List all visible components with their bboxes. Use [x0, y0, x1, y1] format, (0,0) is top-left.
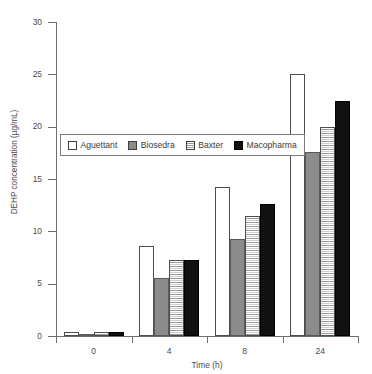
y-tick-mark — [48, 127, 56, 128]
bar-baxter-0h — [94, 332, 109, 336]
bar-baxter-4h — [169, 260, 184, 336]
x-axis-title: Time (h) — [56, 360, 358, 370]
y-tick-mark — [48, 231, 56, 232]
y-tick-mark — [48, 74, 56, 75]
legend-swatch-aguettant-icon — [68, 141, 77, 150]
legend-label: Biosedra — [141, 140, 175, 150]
bar-biosedra-4h — [154, 278, 169, 336]
legend-swatch-baxter-icon — [186, 141, 195, 150]
legend-label: Baxter — [198, 140, 223, 150]
x-tick-label: 4 — [149, 346, 189, 356]
y-tick-mark — [48, 284, 56, 285]
x-tick-label: 24 — [300, 346, 340, 356]
bar-aguettant-24h — [290, 74, 305, 336]
legend-swatch-macopharma-icon — [234, 141, 243, 150]
bar-baxter-24h — [320, 127, 335, 336]
bar-aguettant-0h — [64, 332, 79, 336]
bar-biosedra-24h — [305, 152, 320, 336]
x-tick-mark — [283, 336, 284, 343]
x-tick-label: 8 — [225, 346, 265, 356]
y-tick-label: 5 — [16, 279, 42, 288]
x-tick-label: 0 — [74, 346, 114, 356]
y-tick-mark — [48, 336, 56, 337]
y-tick-mark — [48, 22, 56, 23]
y-axis-line — [56, 22, 57, 336]
y-axis-title: DEHP concentration (µg/mL) — [8, 0, 22, 342]
bar-macopharma-24h — [335, 101, 350, 337]
chart-legend: AguettantBiosedraBaxterMacopharma — [60, 134, 305, 156]
bar-aguettant-8h — [215, 187, 230, 336]
x-tick-mark — [358, 336, 359, 343]
legend-item-macopharma: Macopharma — [234, 140, 297, 150]
y-tick-label: 25 — [16, 70, 42, 79]
x-tick-mark — [132, 336, 133, 343]
legend-swatch-biosedra-icon — [128, 141, 137, 150]
bar-aguettant-4h — [139, 246, 154, 336]
y-tick-label: 30 — [16, 18, 42, 27]
y-tick-label: 20 — [16, 122, 42, 131]
y-tick-label: 0 — [16, 332, 42, 341]
bar-biosedra-8h — [230, 239, 245, 336]
bar-macopharma-8h — [260, 204, 275, 336]
x-tick-mark — [207, 336, 208, 343]
legend-label: Aguettant — [81, 140, 118, 150]
y-tick-mark — [48, 179, 56, 180]
bar-chart: DEHP concentration (µg/mL) 051015202530 … — [0, 0, 372, 374]
bar-macopharma-4h — [184, 260, 199, 336]
bar-biosedra-0h — [79, 334, 94, 336]
legend-item-baxter: Baxter — [186, 140, 223, 150]
y-tick-label: 15 — [16, 175, 42, 184]
y-tick-label: 10 — [16, 227, 42, 236]
x-tick-mark — [56, 336, 57, 343]
legend-label: Macopharma — [247, 140, 297, 150]
legend-item-biosedra: Biosedra — [128, 140, 174, 150]
legend-item-aguettant: Aguettant — [68, 140, 117, 150]
bar-baxter-8h — [245, 216, 260, 336]
bar-macopharma-0h — [109, 332, 124, 336]
